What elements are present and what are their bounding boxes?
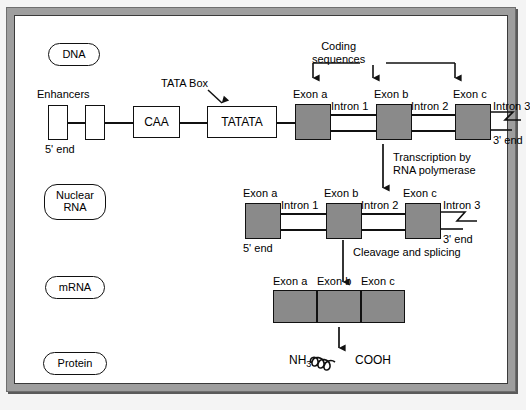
stage-label-dna-text: DNA bbox=[62, 49, 85, 61]
dna-connector-4 bbox=[277, 122, 295, 124]
nrna-exon-a-label: Exon a bbox=[243, 187, 277, 200]
nrna-intron-3-label: Intron 3 bbox=[443, 199, 480, 212]
tata-box-label: TATATA bbox=[221, 115, 263, 129]
dna-exon-a-label: Exon a bbox=[293, 88, 327, 101]
tata-callout-label: TATA Box bbox=[161, 77, 208, 90]
stage-label-mrna-text: mRNA bbox=[59, 282, 91, 294]
nrna-exon-b-label: Exon b bbox=[324, 187, 358, 200]
stage-label-nuclear-rna-line2: RNA bbox=[63, 202, 86, 214]
coding-sequences-line1: Coding bbox=[321, 40, 356, 52]
diagram-panel: DNA Nuclear RNA mRNA Protein Enhancers 5… bbox=[14, 15, 508, 384]
mrna-exon-b bbox=[317, 290, 361, 323]
nrna-strand-top-1 bbox=[281, 213, 326, 215]
dna-connector-3 bbox=[180, 122, 207, 124]
stage-label-nuclear-rna: Nuclear RNA bbox=[44, 184, 106, 220]
stage-label-protein: Protein bbox=[43, 352, 107, 375]
nrna-exon-b bbox=[326, 203, 362, 239]
protein-n-terminus-label: NH3 bbox=[289, 354, 311, 370]
coding-sequences-label: Coding sequences bbox=[312, 40, 365, 65]
dna-strand-bot-1 bbox=[331, 130, 376, 132]
transcription-label-line1: Transcription by bbox=[393, 151, 471, 163]
enhancer-box-2 bbox=[85, 105, 105, 140]
mrna-exon-c bbox=[361, 290, 405, 323]
dna-exon-c-label: Exon c bbox=[453, 88, 487, 101]
dna-exon-b bbox=[376, 104, 412, 140]
transcription-arrow-label: Transcription by RNA polymerase bbox=[393, 151, 476, 176]
nrna-strand-top-2 bbox=[362, 213, 405, 215]
nrna-exon-a bbox=[245, 203, 281, 239]
nrna-intron-1-label: Intron 1 bbox=[281, 199, 318, 212]
mrna-exon-c-label: Exon c bbox=[361, 275, 395, 288]
dna-five-prime-label: 5' end bbox=[45, 143, 75, 156]
enhancers-label: Enhancers bbox=[37, 88, 90, 101]
splicing-arrow-label: Cleavage and splicing bbox=[353, 246, 461, 259]
mrna-exon-b-label: Exon b bbox=[317, 275, 351, 288]
protein-c-terminus-label: COOH bbox=[355, 354, 391, 368]
dna-strand-bot-2 bbox=[412, 130, 455, 132]
nrna-exon-c-label: Exon c bbox=[403, 187, 437, 200]
dna-intron-3-label: Intron 3 bbox=[493, 100, 530, 113]
polypeptide-squiggle bbox=[310, 357, 335, 370]
protein-nh-subscript: 3 bbox=[306, 359, 311, 369]
dna-exon-c bbox=[455, 104, 491, 140]
stage-label-protein-text: Protein bbox=[58, 358, 93, 370]
caa-box: CAA bbox=[133, 106, 180, 138]
dna-intron-2-label: Intron 2 bbox=[411, 100, 448, 113]
stage-label-mrna: mRNA bbox=[45, 276, 105, 299]
nrna-five-prime-label: 5' end bbox=[243, 242, 273, 255]
mrna-exon-a bbox=[273, 290, 317, 323]
dna-strand-top-2 bbox=[412, 114, 455, 116]
dna-connector-2 bbox=[105, 122, 133, 124]
enhancer-box-1 bbox=[48, 105, 68, 140]
dna-exon-a bbox=[295, 104, 331, 140]
dna-three-prime-label: 3' end bbox=[493, 134, 523, 147]
tata-callout-pointer bbox=[208, 90, 222, 103]
dna-connector-1 bbox=[68, 122, 85, 124]
nrna-three-prime-label: 3' end bbox=[443, 233, 473, 246]
dna-exon-b-label: Exon b bbox=[374, 88, 408, 101]
coding-sequences-line2: sequences bbox=[312, 53, 365, 65]
nrna-strand-bot-1 bbox=[281, 229, 326, 231]
nrna-strand-bot-2 bbox=[362, 229, 405, 231]
protein-nh-text: NH bbox=[289, 353, 306, 367]
mrna-exon-a-label: Exon a bbox=[273, 275, 307, 288]
caa-box-label: CAA bbox=[144, 115, 169, 129]
nrna-intron-2-label: Intron 2 bbox=[361, 199, 398, 212]
dna-intron-1-label: Intron 1 bbox=[331, 100, 368, 113]
tata-box: TATATA bbox=[207, 106, 277, 138]
transcription-label-line2: RNA polymerase bbox=[393, 164, 476, 176]
dna-strand-top-1 bbox=[331, 114, 376, 116]
stage-label-dna: DNA bbox=[48, 43, 100, 66]
nrna-exon-c bbox=[405, 203, 441, 239]
nrna-three-prime-break bbox=[441, 212, 477, 221]
